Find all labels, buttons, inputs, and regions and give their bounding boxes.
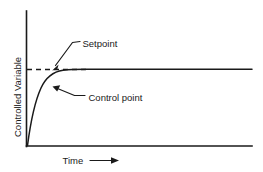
figure-container: Setpoint Control point Controlled Variab…	[0, 0, 263, 172]
setpoint-leader-line	[56, 42, 81, 66]
y-axis-label: Controlled Variable	[12, 57, 23, 137]
time-direction-arrow-icon	[90, 157, 119, 164]
setpoint-annotation-label: Setpoint	[83, 38, 118, 49]
control-point-arrowhead-icon	[53, 85, 61, 91]
control-point-leader-line	[58, 89, 86, 96]
x-axis-label: Time	[63, 155, 84, 166]
control-point-annotation-label: Control point	[89, 92, 143, 103]
controlled-variable-response-curve	[28, 69, 253, 145]
process-response-chart: Setpoint Control point Controlled Variab…	[0, 0, 263, 172]
